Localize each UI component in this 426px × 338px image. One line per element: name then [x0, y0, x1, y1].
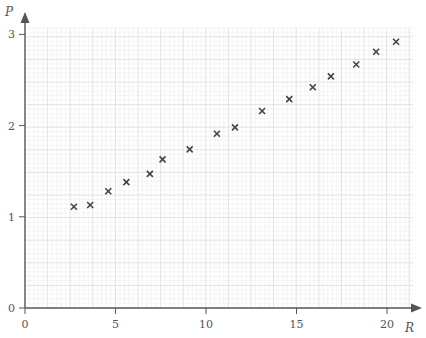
- x-tick-label: 10: [199, 318, 213, 331]
- y-axis-label: P: [4, 5, 14, 19]
- data-point-x-marker-icon: [393, 39, 399, 45]
- x-tick-label: 20: [380, 318, 394, 331]
- data-point-x-marker-icon: [71, 204, 77, 210]
- data-point-x-marker-icon: [310, 84, 316, 90]
- grid-minor: [25, 28, 413, 308]
- y-tick-label: 3: [8, 28, 15, 41]
- data-point-x-marker-icon: [353, 61, 359, 67]
- y-axis-arrow-icon: [21, 12, 30, 23]
- x-tick-label: 0: [22, 318, 29, 331]
- y-tick-label: 2: [8, 120, 15, 133]
- y-tick-label: 0: [8, 302, 15, 315]
- data-point-x-marker-icon: [328, 73, 334, 79]
- x-axis-arrow-icon: [411, 304, 422, 313]
- x-tick-label: 5: [112, 318, 119, 331]
- x-axis-label: R: [404, 321, 414, 335]
- data-point-x-marker-icon: [373, 49, 379, 55]
- data-point-x-marker-icon: [147, 171, 153, 177]
- y-tick-label: 1: [8, 211, 15, 224]
- x-tick-label: 15: [290, 318, 304, 331]
- scatter-chart: 051015200123 R P: [0, 0, 426, 338]
